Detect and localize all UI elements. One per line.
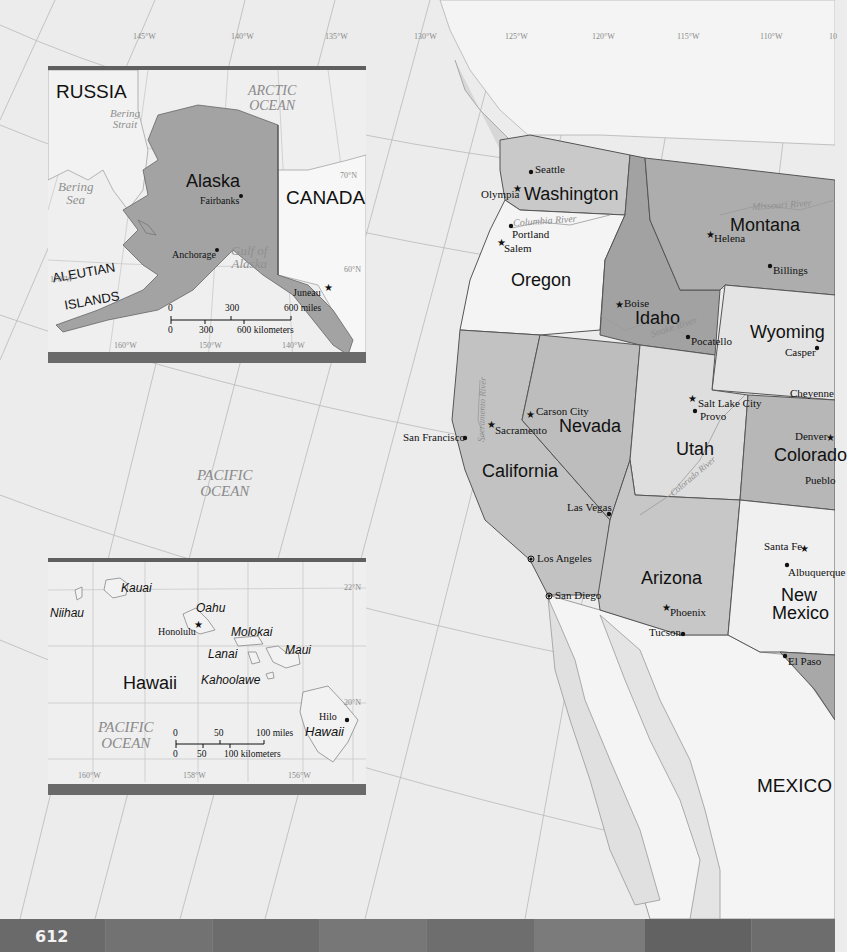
longitude-label-125w: 125°W xyxy=(505,33,528,41)
hawaii-state-label: Hawaii xyxy=(123,674,177,692)
capital-star-icon: ★ xyxy=(324,283,333,293)
hawaii-inset-bar xyxy=(48,784,366,795)
city-label-el-paso: El Paso xyxy=(788,656,821,667)
ocean-line-2: OCEAN xyxy=(197,484,253,500)
alaska-inset-bar xyxy=(48,352,366,363)
graticule-160w-hi: 160°W xyxy=(78,772,101,780)
hawaii-scale-km-100: 100 kilometers xyxy=(224,750,281,760)
city-label-salt-lake-city: Salt Lake City xyxy=(698,398,762,409)
city-label-casper: Casper xyxy=(785,347,816,358)
graticule-150w: 150°W xyxy=(199,342,222,350)
longitude-label-135w: 135°W xyxy=(325,33,348,41)
city-label-albuquerque: Albuquerque xyxy=(788,567,845,578)
city-label-helena: Helena xyxy=(714,233,745,244)
graticule-70n: 70°N xyxy=(340,172,357,180)
city-label-billings: Billings xyxy=(773,265,808,276)
city-label-carson-city: Carson City xyxy=(536,406,589,417)
longitude-label-130w: 130°W xyxy=(414,33,437,41)
longitude-label-140w: 140°W xyxy=(231,33,254,41)
city-label-salem: Salem xyxy=(504,243,532,254)
footer-segment xyxy=(427,919,534,952)
state-label-wyoming: Wyoming xyxy=(750,323,825,341)
hawaii-pacific-label: PACIFIC OCEAN xyxy=(98,720,154,752)
city-label-seattle: Seattle xyxy=(535,164,565,175)
russia-label: RUSSIA xyxy=(56,82,127,101)
island-label-maui: Maui xyxy=(285,644,311,656)
graticule-156w-hi: 156°W xyxy=(288,772,311,780)
longitude-label-115w: 115°W xyxy=(677,33,699,41)
state-label-new-mexico-line2: Mexico xyxy=(772,604,829,622)
city-label-las-vegas: Las Vegas xyxy=(567,502,612,513)
scale-miles-300: 300 xyxy=(225,304,239,314)
country-label-mexico: MEXICO xyxy=(757,776,832,795)
city-label-anchorage: Anchorage xyxy=(172,250,216,260)
scale-km-600: 600 kilometers xyxy=(237,326,294,336)
arctic-ocean-label: ARCTIC OCEAN xyxy=(248,84,296,113)
city-label-pocatello: Pocatello xyxy=(691,336,732,347)
arctic-line-1: ARCTIC xyxy=(248,84,296,99)
scale-km-0: 0 xyxy=(168,326,173,336)
hawaii-ocean-line-1: PACIFIC xyxy=(98,720,154,736)
state-label-colorado: Colorado xyxy=(774,446,847,464)
city-label-provo: Provo xyxy=(700,411,726,422)
city-label-boise: Boise xyxy=(624,298,649,309)
hawaii-scale-bar xyxy=(176,740,264,748)
state-label-washington: Washington xyxy=(524,185,618,203)
city-label-san-diego: San Diego xyxy=(555,590,601,601)
island-niihau xyxy=(75,587,82,600)
island-label-kahoolawe: Kahoolawe xyxy=(201,674,260,686)
bering-strait-label: Bering Strait xyxy=(110,108,140,130)
city-label-phoenix: Phoenix xyxy=(670,607,706,618)
longitude-label-145w: 145°W xyxy=(133,33,156,41)
canada-region xyxy=(440,0,835,145)
svg-text:★: ★ xyxy=(688,393,697,404)
state-label-arizona: Arizona xyxy=(641,569,702,587)
island-label-niihau: Niihau xyxy=(50,607,84,619)
island-label-hawaii: Hawaii xyxy=(305,725,344,738)
city-label-tucson: Tucson xyxy=(649,627,681,638)
hawaii-scale-miles-50: 50 xyxy=(214,729,224,739)
island-lanai xyxy=(248,652,260,664)
city-label-san-francisco: San Francisco xyxy=(403,432,465,443)
pacific-ocean-label: PACIFIC OCEAN xyxy=(197,468,253,500)
graticule-160w: 160°W xyxy=(114,342,137,350)
city-label-hilo: Hilo xyxy=(319,712,337,722)
longitude-label-105w: 10 xyxy=(829,33,837,41)
footer-segment xyxy=(645,919,752,952)
hawaii-scale-km-0: 0 xyxy=(173,750,178,760)
island-label-lanai: Lanai xyxy=(208,648,237,660)
city-label-denver: Denver xyxy=(795,431,827,442)
city-label-los-angeles: Los Angeles xyxy=(537,553,592,564)
bering-sea-line-2: Sea xyxy=(58,193,93,206)
island-label-oahu: Oahu xyxy=(196,602,225,614)
longitude-label-120w: 120°W xyxy=(592,33,615,41)
city-label-olympia: Olympia xyxy=(481,189,520,200)
state-label-new-mexico-line1: New xyxy=(781,586,817,604)
bering-strait-line-2: Strait xyxy=(110,119,140,130)
svg-text:★: ★ xyxy=(526,409,535,420)
hawaii-scale-km-50: 50 xyxy=(197,750,207,760)
graticule-170w: 170°W xyxy=(50,276,73,284)
scale-miles-600: 600 miles xyxy=(284,304,321,314)
alaska-scale-bar xyxy=(171,316,291,324)
city-label-fairbanks: Fairbanks xyxy=(200,196,239,206)
footer-bar xyxy=(0,919,835,952)
longitude-label-110w: 110°W xyxy=(760,33,782,41)
graticule-22n-hi: 22°N xyxy=(344,584,361,592)
gulf-of-alaska-label: Gulf of Alaska xyxy=(231,244,267,270)
hawaii-inset: Niihau Kauai Oahu Molokai Lanai Maui Kah… xyxy=(48,558,366,795)
gulf-line-2: Alaska xyxy=(231,257,267,270)
island-kahoolawe xyxy=(266,672,274,679)
city-label-portland: Portland xyxy=(512,229,549,240)
city-label-santa-fe: Santa Fe xyxy=(764,541,802,552)
graticule-60n: 60°N xyxy=(344,266,361,274)
alaska-inset-map xyxy=(48,70,366,363)
graticule-158w-hi: 158°W xyxy=(183,772,206,780)
hawaii-scale-miles-100: 100 miles xyxy=(256,729,293,739)
ocean-line-1: PACIFIC xyxy=(197,468,253,484)
bering-sea-label: Bering Sea xyxy=(58,180,93,206)
city-label-juneau: Juneau xyxy=(293,288,321,298)
canada-label: CANADA xyxy=(286,188,365,207)
footer-segment xyxy=(106,919,213,952)
alaska-label: Alaska xyxy=(186,172,240,190)
